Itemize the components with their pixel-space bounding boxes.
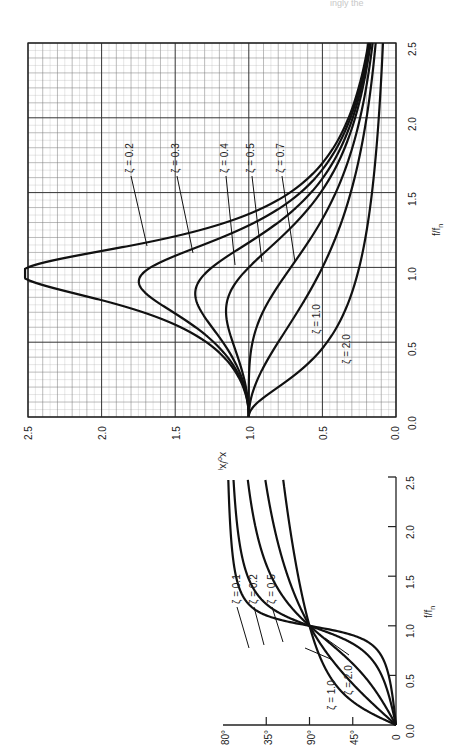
phase-freq-tick-0-0: 0.0 bbox=[405, 724, 416, 738]
freq-tick-0-0: 0.0 bbox=[407, 416, 418, 430]
phase-freq-tick-2-5: 2.5 bbox=[405, 476, 416, 490]
header-fragment: ingly the bbox=[330, 0, 364, 8]
ratio-tick-1-5: 1.5 bbox=[171, 426, 182, 440]
freq-tick-1-5: 1.5 bbox=[407, 192, 418, 206]
angle-tick-0: 0 bbox=[391, 734, 402, 740]
label-zeta-0-2: ζ = 0.2 bbox=[124, 143, 136, 173]
ratio-axis-title: xo/xi bbox=[217, 452, 229, 471]
phase-label-zeta-2-0: ζ = 2.0 bbox=[343, 665, 355, 695]
phase-freq-tick-1-0: 1.0 bbox=[405, 624, 416, 638]
label-leader-lines bbox=[131, 176, 295, 265]
freq-tick-2-5: 2.5 bbox=[407, 42, 418, 56]
ratio-tick-1-0: 1.0 bbox=[245, 426, 256, 440]
phase-freq-tick-0-5: 0.5 bbox=[405, 674, 416, 688]
angle-tick-45: 45° bbox=[349, 730, 360, 745]
angle-tick-135: 35° bbox=[263, 730, 274, 745]
phase-label-zeta-0-2: ζ = 0.2 bbox=[248, 574, 260, 604]
freq-tick-0-5: 0.5 bbox=[407, 342, 418, 356]
phase-freq-axis-title: f/fn bbox=[423, 606, 436, 618]
freq-tick-2-0: 2.0 bbox=[407, 117, 418, 131]
phase-curve bbox=[283, 480, 396, 725]
freq-tick-1-0: 1.0 bbox=[407, 267, 418, 281]
label-zeta-1-0: ζ = 1.0 bbox=[311, 304, 323, 334]
phase-freq-tick-1-5: 1.5 bbox=[405, 575, 416, 589]
label-zeta-2-0: ζ = 2.0 bbox=[341, 334, 353, 364]
label-zeta-0-3: ζ = 0.3 bbox=[170, 143, 182, 173]
ratio-tick-0-0: 0.0 bbox=[390, 426, 401, 440]
svg-text:xo/xi: xo/xi bbox=[217, 452, 229, 471]
phase-freq-tick-2-0: 2.0 bbox=[405, 525, 416, 539]
freq-axis-title: f/fn bbox=[431, 224, 444, 236]
svg-text:f/fn: f/fn bbox=[431, 224, 444, 236]
label-zeta-0-7: ζ = 0.7 bbox=[275, 143, 287, 173]
angle-tick-90: 90° bbox=[306, 730, 317, 745]
label-zeta-0-4: ζ = 0.4 bbox=[219, 143, 231, 173]
phase-label-zeta-0-1: ζ = 0.1 bbox=[231, 574, 243, 604]
phase-angle-plot: 80° 35° 90° 45° 0 0.0 0.5 1.0 1.5 2.0 2.… bbox=[220, 476, 436, 745]
ratio-tick-2-5: 2.5 bbox=[23, 426, 34, 440]
figure-canvas: ingly the 2.5 2.0 1.5 1.0 0.5 0.0 0.0 0.… bbox=[0, 0, 462, 748]
angle-tick-180: 80° bbox=[220, 730, 231, 745]
phase-label-zeta-0-5: ζ = 0.5 bbox=[266, 574, 278, 604]
ratio-tick-0-5: 0.5 bbox=[318, 426, 329, 440]
ratio-tick-2-0: 2.0 bbox=[97, 426, 108, 440]
phase-label-zeta-1-0: ζ = 1.0 bbox=[326, 680, 338, 710]
label-zeta-0-5: ζ = 0.5 bbox=[245, 143, 257, 173]
svg-text:f/fn: f/fn bbox=[423, 606, 436, 618]
amplitude-ratio-plot: 2.5 2.0 1.5 1.0 0.5 0.0 0.0 0.5 1.0 1.5 … bbox=[23, 42, 444, 471]
